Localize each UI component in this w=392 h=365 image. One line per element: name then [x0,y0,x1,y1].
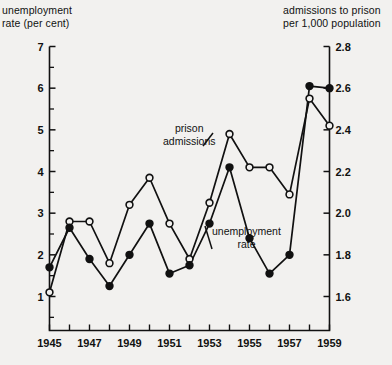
y2-axis-tick-label: 2.6 [336,82,351,94]
x-axis-tick-label: 1945 [37,337,61,349]
y-axis-tick-label: 5 [37,124,43,136]
prison-admissions-marker [146,174,153,181]
unemployment-rate-marker [126,251,133,258]
prison-admissions-marker [206,199,213,206]
x-axis-tick-label: 1957 [277,337,301,349]
y-axis-tick-label: 4 [37,166,44,178]
y2-axis-tick-label: 2.8 [336,41,351,53]
y-axis-tick-label: 2 [37,249,43,261]
x-axis-tick-label: 1959 [317,337,341,349]
y2-axis-tick-label: 2.4 [336,124,352,136]
x-axis-tick-label: 1955 [237,337,261,349]
unemployment-rate-marker [106,283,113,290]
prison-admissions-marker [306,95,313,102]
y2-axis-tick-label: 1.6 [336,291,351,303]
unemployment-rate-marker [166,270,173,277]
prison-admissions-marker [46,289,53,296]
leader-line-unemployment [205,226,212,249]
chart-figure: unemployment rate (per cent) admissions … [0,0,392,365]
y-axis-tick-label: 1 [37,291,43,303]
x-axis-tick-label: 1949 [117,337,141,349]
y2-axis-tick-label: 2.0 [336,207,351,219]
line-chart-plot: 12345671.61.82.02.22.42.62.8194519471949… [0,0,392,365]
unemployment-rate-marker [326,85,333,92]
axis-frame [50,47,330,331]
unemployment-rate-marker [266,270,273,277]
axes-group [50,47,330,331]
annotation-unemployment-rate: unemployment rate [212,225,281,250]
unemployment-rate-marker [86,256,93,263]
unemployment-rate-marker [226,164,233,171]
prison-admissions-marker [266,164,273,171]
unemployment-rate-marker [46,264,53,271]
unemployment-rate-marker [286,251,293,258]
x-axis-tick-label: 1947 [77,337,101,349]
prison-admissions-marker [166,220,173,227]
y-axis-tick-label: 6 [37,82,43,94]
y-axis-tick-label: 7 [37,41,43,53]
unemployment-rate-marker [66,224,73,231]
annotation-prison-admissions: prison admissions [163,122,216,147]
x-axis-tick-label: 1953 [197,337,221,349]
y-axis-tick-label: 3 [37,207,43,219]
prison-admissions-marker [286,191,293,198]
prison-admissions-marker [106,260,113,267]
prison-admissions-marker [246,164,253,171]
y2-axis-tick-label: 2.2 [336,166,351,178]
prison-admissions-marker [126,201,133,208]
prison-admissions-marker [326,122,333,129]
prison-admissions-marker [86,218,93,225]
x-axis-tick-label: 1951 [157,337,181,349]
unemployment-rate-marker [186,262,193,269]
unemployment-rate-marker [306,83,313,90]
prison-admissions-marker [226,131,233,138]
tick-labels-group: 12345671.61.82.02.22.42.62.8194519471949… [37,41,351,349]
unemployment-rate-marker [146,220,153,227]
y2-axis-tick-label: 1.8 [336,249,351,261]
